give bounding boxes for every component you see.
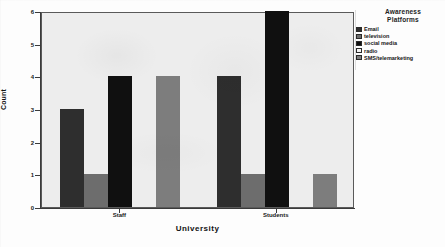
y-axis-tick-label: 5 <box>16 42 34 48</box>
legend-item-label: SMS/telemarketing <box>364 55 413 61</box>
legend-item-label: television <box>364 33 389 39</box>
legend-swatch <box>356 48 362 53</box>
legend-item-label: Email <box>364 26 379 32</box>
bar <box>313 174 337 207</box>
y-axis-tick-label: 4 <box>16 74 34 80</box>
legend-swatch <box>356 41 362 46</box>
legend-items: Emailtelevisionsocial mediaradioSMS/tele… <box>356 26 444 61</box>
chart-page: 6543210 Count StaffStudents University A… <box>0 0 445 247</box>
plot-area <box>41 12 354 208</box>
bars-layer <box>42 13 353 207</box>
legend-title-line-1: Awareness <box>362 8 444 16</box>
y-axis-tick <box>35 77 40 78</box>
y-axis-tick <box>35 175 40 176</box>
legend-item: social media <box>356 40 444 47</box>
y-axis-tick-label: 0 <box>16 205 34 211</box>
legend-item: SMS/telemarketing <box>356 54 444 61</box>
legend-swatch <box>356 55 362 60</box>
bar <box>60 109 84 207</box>
y-axis-tick-label: 3 <box>16 107 34 113</box>
x-axis-tick-label: Students <box>246 212 306 219</box>
bar <box>84 174 108 207</box>
y-axis-tick <box>35 12 40 13</box>
legend-title-line-2: Platforms <box>362 16 444 24</box>
legend-item: Email <box>356 26 444 33</box>
chart-legend: Awareness Platforms Emailtelevisionsocia… <box>356 8 444 61</box>
y-axis-tick <box>35 110 40 111</box>
legend-title: Awareness Platforms <box>356 8 444 23</box>
bar <box>217 76 241 207</box>
legend-swatch <box>356 27 362 32</box>
y-axis-tick-label: 2 <box>16 140 34 146</box>
legend-item-label: social media <box>364 40 397 46</box>
legend-item: television <box>356 33 444 40</box>
legend-swatch <box>356 34 362 39</box>
bar <box>265 11 289 207</box>
x-axis-line <box>40 208 355 209</box>
y-axis-title: Count <box>0 89 7 110</box>
legend-item: radio <box>356 47 444 54</box>
x-axis-title: University <box>41 224 354 233</box>
y-axis-tick-label: 1 <box>16 172 34 178</box>
y-axis-tick <box>35 45 40 46</box>
bar <box>241 174 265 207</box>
y-axis-tick-label: 6 <box>16 9 34 15</box>
bar <box>108 76 132 207</box>
bar <box>156 76 180 207</box>
y-axis-tick <box>35 143 40 144</box>
legend-item-label: radio <box>364 48 377 54</box>
x-axis-tick-label: Staff <box>89 212 149 219</box>
y-axis-line <box>40 12 41 209</box>
